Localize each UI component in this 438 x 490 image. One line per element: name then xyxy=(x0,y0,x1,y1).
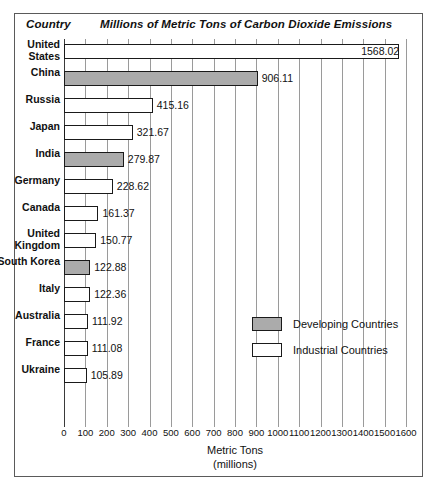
bar-value-label: 906.11 xyxy=(258,71,293,86)
x-tick-label: 1600 xyxy=(395,427,416,438)
x-tick-label: 1400 xyxy=(353,427,374,438)
bar[interactable] xyxy=(64,260,90,275)
x-axis-tick-labels: 0100200300400500600700800900100011001200… xyxy=(64,427,406,443)
country-column-header: Country xyxy=(26,18,71,30)
bar-row[interactable]: Canada161.37 xyxy=(64,201,406,228)
bar[interactable] xyxy=(64,233,96,248)
bar[interactable] xyxy=(64,71,258,86)
x-tick-label: 1500 xyxy=(374,427,395,438)
category-label: Canada xyxy=(0,201,60,213)
bar-row[interactable]: Japan321.67 xyxy=(64,120,406,147)
bar-value-label: 415.16 xyxy=(153,98,189,113)
bar-value-label: 111.08 xyxy=(88,341,123,356)
bar-value-label: 161.37 xyxy=(98,206,134,221)
bar-row[interactable]: India279.87 xyxy=(64,147,406,174)
bar-row[interactable]: UnitedStates1568.02 xyxy=(64,39,406,66)
x-tick-label: 400 xyxy=(142,427,158,438)
category-label: China xyxy=(0,66,60,78)
x-tick-label: 300 xyxy=(120,427,136,438)
bar[interactable] xyxy=(64,98,153,113)
category-label: Ukraine xyxy=(0,363,60,375)
bar[interactable] xyxy=(64,125,133,140)
legend-item-developing: Developing Countries xyxy=(252,315,412,341)
x-tick-label: 1300 xyxy=(331,427,352,438)
bar-value-label: 321.67 xyxy=(133,125,169,140)
legend-swatch-developing xyxy=(252,317,282,331)
bar-row[interactable]: Russia415.16 xyxy=(64,93,406,120)
category-label: Japan xyxy=(0,120,60,132)
bar-row[interactable]: Italy122.36 xyxy=(64,282,406,309)
x-tick-label: 900 xyxy=(248,427,264,438)
x-axis-title: Metric Tons (millions) xyxy=(64,443,406,471)
bar-value-label: 111.92 xyxy=(88,314,123,329)
x-tick-label: 800 xyxy=(227,427,243,438)
x-tick-label: 1200 xyxy=(310,427,331,438)
bar-value-label: 122.88 xyxy=(90,260,126,275)
x-tick-label: 1000 xyxy=(267,427,288,438)
bar[interactable] xyxy=(64,179,113,194)
bar[interactable] xyxy=(64,314,88,329)
x-tick-label: 600 xyxy=(184,427,200,438)
bar[interactable] xyxy=(64,206,98,221)
bar[interactable] xyxy=(64,368,87,383)
bar-row[interactable]: South Korea122.88 xyxy=(64,255,406,282)
x-tick-label: 1100 xyxy=(289,427,309,438)
bar[interactable] xyxy=(64,287,90,302)
bar-row[interactable]: Ukraine105.89 xyxy=(64,363,406,390)
x-axis-title-line1: Metric Tons xyxy=(64,443,406,457)
category-label: India xyxy=(0,147,60,159)
bar-row[interactable]: China906.11 xyxy=(64,66,406,93)
chart-title: Millions of Metric Tons of Carbon Dioxid… xyxy=(100,18,392,30)
category-label: Italy xyxy=(0,282,60,294)
legend-swatch-industrial xyxy=(252,343,282,357)
category-label: Russia xyxy=(0,93,60,105)
bar-value-label: 1568.02 xyxy=(64,44,404,59)
x-tick-label: 500 xyxy=(163,427,179,438)
bar[interactable] xyxy=(64,152,124,167)
bar-value-label: 105.89 xyxy=(87,368,123,383)
plot-area: UnitedStates1568.02China906.11Russia415.… xyxy=(64,39,406,427)
legend-label-developing: Developing Countries xyxy=(293,315,398,333)
category-label: France xyxy=(0,336,60,348)
gridline xyxy=(406,39,407,427)
bar-row[interactable]: UnitedKingdom150.77 xyxy=(64,228,406,255)
x-tick-label: 0 xyxy=(61,427,66,438)
bar-row[interactable]: Germany228.62 xyxy=(64,174,406,201)
legend-label-industrial: Industrial Countries xyxy=(293,341,388,359)
bar[interactable] xyxy=(64,341,88,356)
x-tick-label: 700 xyxy=(206,427,222,438)
category-label: UnitedKingdom xyxy=(0,227,60,251)
category-label: UnitedStates xyxy=(0,38,60,62)
legend: Developing Countries Industrial Countrie… xyxy=(252,315,412,367)
legend-item-industrial: Industrial Countries xyxy=(252,341,412,367)
category-label: South Korea xyxy=(0,255,60,267)
bar-value-label: 279.87 xyxy=(124,152,160,167)
bar-value-label: 228.62 xyxy=(113,179,149,194)
x-axis-title-line2: (millions) xyxy=(64,457,406,471)
category-label: Germany xyxy=(0,174,60,186)
bar-value-label: 150.77 xyxy=(96,233,132,248)
x-tick-label: 100 xyxy=(77,427,93,438)
chart-header: Country Millions of Metric Tons of Carbo… xyxy=(15,18,422,38)
chart-frame: Country Millions of Metric Tons of Carbo… xyxy=(14,13,423,477)
category-label: Australia xyxy=(0,309,60,321)
x-tick-label: 200 xyxy=(99,427,115,438)
bar-value-label: 122.36 xyxy=(90,287,126,302)
